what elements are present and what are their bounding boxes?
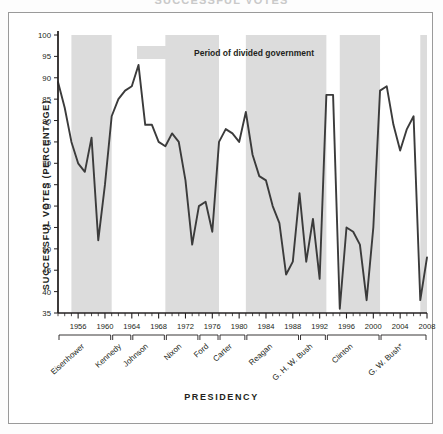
presidency-bracket (166, 335, 198, 340)
presidency-label: Reagan (247, 342, 274, 367)
divided-government-band (340, 35, 380, 313)
presidency-label: Clinton (330, 342, 355, 365)
x-tick-label: 1980 (231, 322, 248, 331)
divided-government-band (420, 35, 427, 313)
presidency-bracket (327, 335, 379, 340)
x-tick-label: 1972 (177, 322, 194, 331)
x-tick-label: 2008 (419, 322, 436, 331)
presidency-label: Carter (211, 342, 234, 364)
x-tick-label: 1956 (70, 322, 87, 331)
y-tick-label: 100 (38, 31, 52, 40)
x-tick-label: 1988 (284, 322, 301, 331)
presidency-bracket (301, 335, 326, 340)
y-axis-title-holder: SUCCESSFUL VOTES (PERCENTAGE) (22, 40, 42, 300)
x-tick-label: 1984 (258, 322, 275, 331)
y-tick-label: 95 (42, 52, 51, 61)
x-tick-label: 2000 (365, 322, 382, 331)
legend-label-divided-government: Period of divided government (194, 48, 314, 58)
x-tick-label: 1960 (97, 322, 114, 331)
x-tick-label: 1976 (204, 322, 221, 331)
x-tick-label: 2004 (392, 322, 409, 331)
x-tick-label: 1968 (150, 322, 167, 331)
x-tick-label: 1996 (338, 322, 355, 331)
presidency-bracket (247, 335, 299, 340)
presidency-bracket (381, 335, 426, 340)
presidency-label: G. W. Bush* (366, 342, 404, 378)
y-tick-label: 35 (42, 309, 51, 318)
presidency-label: Kennedy (94, 342, 124, 370)
line-chart: 3540455055606570758085909510019561960196… (0, 0, 443, 434)
x-axis-title: PRESIDENCY (0, 392, 443, 402)
figure-page: SUCCESSFUL VOTES 35404550556065707580859… (0, 0, 443, 434)
y-axis-title: SUCCESSFUL VOTES (PERCENTAGE) (41, 85, 51, 305)
plot-area: 3540455055606570758085909510019561960196… (0, 0, 443, 434)
presidency-label: Nixon (162, 342, 183, 362)
presidency-bracket (113, 335, 131, 340)
divided-government-band (165, 35, 219, 313)
presidency-label: Eisenhower (49, 342, 86, 377)
legend: Period of divided government (137, 46, 314, 59)
presidency-label: Johnson (121, 342, 150, 369)
presidency-bracket (200, 335, 218, 340)
presidency-bracket (59, 335, 111, 340)
presidency-bracket (220, 335, 245, 340)
x-tick-label: 1992 (311, 322, 328, 331)
presidency-label: G. H. W. Bush (271, 342, 315, 383)
y-tick-label: 90 (42, 74, 51, 83)
presidency-bracket (133, 335, 165, 340)
presidency-label: Ford (192, 342, 210, 360)
x-tick-label: 1964 (123, 322, 140, 331)
legend-swatch-divided-government (137, 46, 171, 59)
